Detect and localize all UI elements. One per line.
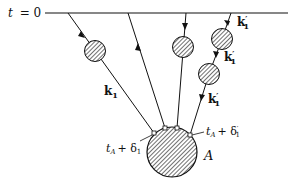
vertex-3 [175, 126, 179, 130]
intermediate-particle-k1 [85, 41, 106, 62]
label-k1: k1 [104, 84, 118, 100]
label-k1-prime-top: k′1 [237, 13, 249, 31]
label-vertex-right: tA+ δ′1 [206, 125, 240, 139]
k1-line [68, 13, 154, 133]
label-A: A [203, 148, 213, 163]
intermediate-particle-low [199, 64, 220, 85]
arrow-icon [199, 94, 205, 101]
line-2 [128, 13, 165, 128]
intermediate-particle-mid [173, 37, 194, 58]
line-3 [177, 13, 186, 128]
arrow-icon [213, 51, 219, 58]
vertex-left [152, 131, 156, 135]
intermediate-particle-top [212, 29, 233, 50]
feynman-diagram: t = 0 k1 k′1 k′1 k′1 tA+ δ1 tA+ δ′1 [0, 0, 299, 191]
label-k1-prime-low: k′1 [208, 90, 220, 108]
label-k1-prime-mid: k′1 [224, 48, 236, 66]
leader-right [192, 132, 204, 135]
vertex-2 [163, 126, 167, 130]
vertex-right [188, 133, 192, 137]
arrow-icon [135, 43, 141, 51]
arrow-icon [182, 23, 188, 30]
time-zero-label: t = 0 [8, 6, 41, 20]
label-vertex-left: tA+ δ1 [106, 142, 141, 156]
